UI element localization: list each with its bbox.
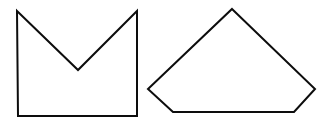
shapes-svg — [0, 0, 329, 129]
drawing-canvas — [0, 0, 329, 129]
